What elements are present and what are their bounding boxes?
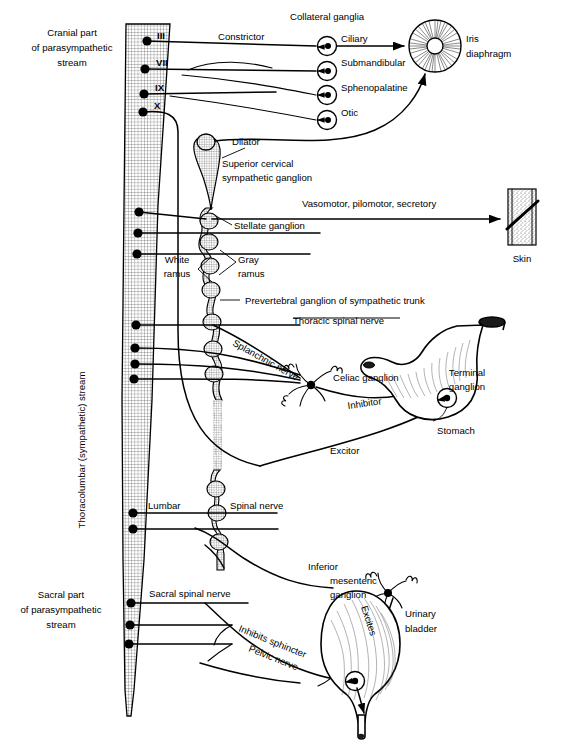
figure-canvas: Cranial part of parasympathetic stream I…: [0, 0, 572, 744]
label-sphenopalatine: Sphenopalatine: [341, 82, 408, 93]
label-sacral-spinal-nerve: Sacral spinal nerve: [149, 588, 231, 599]
label-splanchnic-nerve: Splanchnic nerve: [231, 337, 301, 382]
label-inhibitor: Inhibitor: [347, 395, 383, 411]
collateral-ganglia-heading: Collateral ganglia: [290, 11, 365, 22]
cranial-stream-line3: stream: [57, 57, 86, 68]
label-inferior-mesenteric-line3: ganglion: [330, 589, 366, 600]
cranial-nerve-label-ix: IX: [155, 82, 165, 93]
label-superior-cervical-line1: Superior cervical: [222, 158, 293, 169]
label-excitor: Excitor: [330, 445, 360, 456]
ganglion-otic: [318, 111, 337, 130]
label-stomach: Stomach: [437, 425, 475, 436]
ganglion-submandibular: [318, 62, 337, 81]
label-inferior-mesenteric-line2: mesenteric: [330, 575, 377, 586]
label-skin: Skin: [513, 253, 532, 264]
spinal-cord-shape: [122, 24, 170, 716]
label-terminal-ganglion-line2: ganglion: [449, 381, 485, 392]
sacral-branch-join-1: [214, 625, 232, 645]
label-constrictor: Constrictor: [218, 31, 265, 42]
label-thoracic-spinal-nerve: Thoracic spinal nerve: [293, 315, 384, 326]
sacral-branch-join-2: [208, 644, 232, 661]
label-stellate-ganglion: Stellate ganglion: [234, 220, 305, 231]
autonomic-nervous-system-diagram: Cranial part of parasympathetic stream I…: [0, 0, 572, 744]
label-submandibular: Submandibular: [341, 57, 406, 68]
label-vasomotor: Vasomotor, pilomotor, secretory: [302, 198, 436, 209]
label-otic: Otic: [341, 107, 358, 118]
urinary-bladder-icon: [321, 591, 400, 739]
sacral-stream-line1: Sacral part: [38, 589, 85, 600]
label-inferior-mesenteric-line1: Inferior: [308, 561, 339, 572]
label-urinary-line1: Urinary: [405, 608, 436, 619]
label-iris-line2: diaphragm: [466, 48, 511, 59]
label-superior-cervical-line2: sympathetic ganglion: [222, 172, 312, 183]
skin-patch-icon: [507, 189, 538, 245]
label-spinal-nerve: Spinal nerve: [230, 500, 283, 511]
sacral-stream-line3: stream: [46, 619, 75, 630]
label-ciliary: Ciliary: [341, 33, 368, 44]
nerve-x-to-otic: [170, 96, 316, 120]
sacral-stream-line2: of parasympathetic: [20, 604, 101, 615]
thoracic-roots-group: [132, 207, 320, 258]
leader-gray-ramus: [220, 250, 236, 262]
lumbar-roots-group: [128, 508, 333, 588]
label-prevertebral-ganglion: Prevertebral ganglion of sympathetic tru…: [245, 295, 425, 306]
label-dilator: Dilator: [232, 136, 261, 147]
label-white-ramus-line1: White: [165, 254, 190, 265]
cranial-stream-line1: Cranial part: [47, 27, 97, 38]
ganglion-sphenopalatine: [318, 86, 337, 105]
cranial-nerve-label-x: X: [154, 100, 161, 111]
cranial-nerve-label-iii: III: [157, 30, 165, 41]
iris-diaphragm-icon: [409, 20, 461, 72]
label-terminal-ganglion-line1: Terminal: [449, 367, 485, 378]
label-iris-line1: Iris: [466, 33, 479, 44]
label-gray-ramus-line2: ramus: [238, 268, 265, 279]
label-lumbar: Lumbar: [148, 500, 181, 511]
label-thoracolumbar-stream: Thoracolumbar (sympathetic) stream: [76, 372, 87, 529]
cranial-nerve-label-vii: VII: [156, 57, 168, 68]
label-gray-ramus-line1: Gray: [238, 254, 259, 265]
nerve-vii-to-submandibular: [145, 69, 316, 71]
label-urinary-line2: bladder: [405, 623, 438, 634]
cranial-stream-line2: of parasympathetic: [31, 42, 112, 53]
leader-gray-ramus-2: [219, 262, 236, 275]
nerve-vii-branch: [188, 62, 272, 70]
label-white-ramus-line2: ramus: [164, 268, 191, 279]
leader-superior-cervical: [222, 148, 245, 158]
label-celiac-ganglion: Celiac ganglion: [333, 372, 399, 383]
